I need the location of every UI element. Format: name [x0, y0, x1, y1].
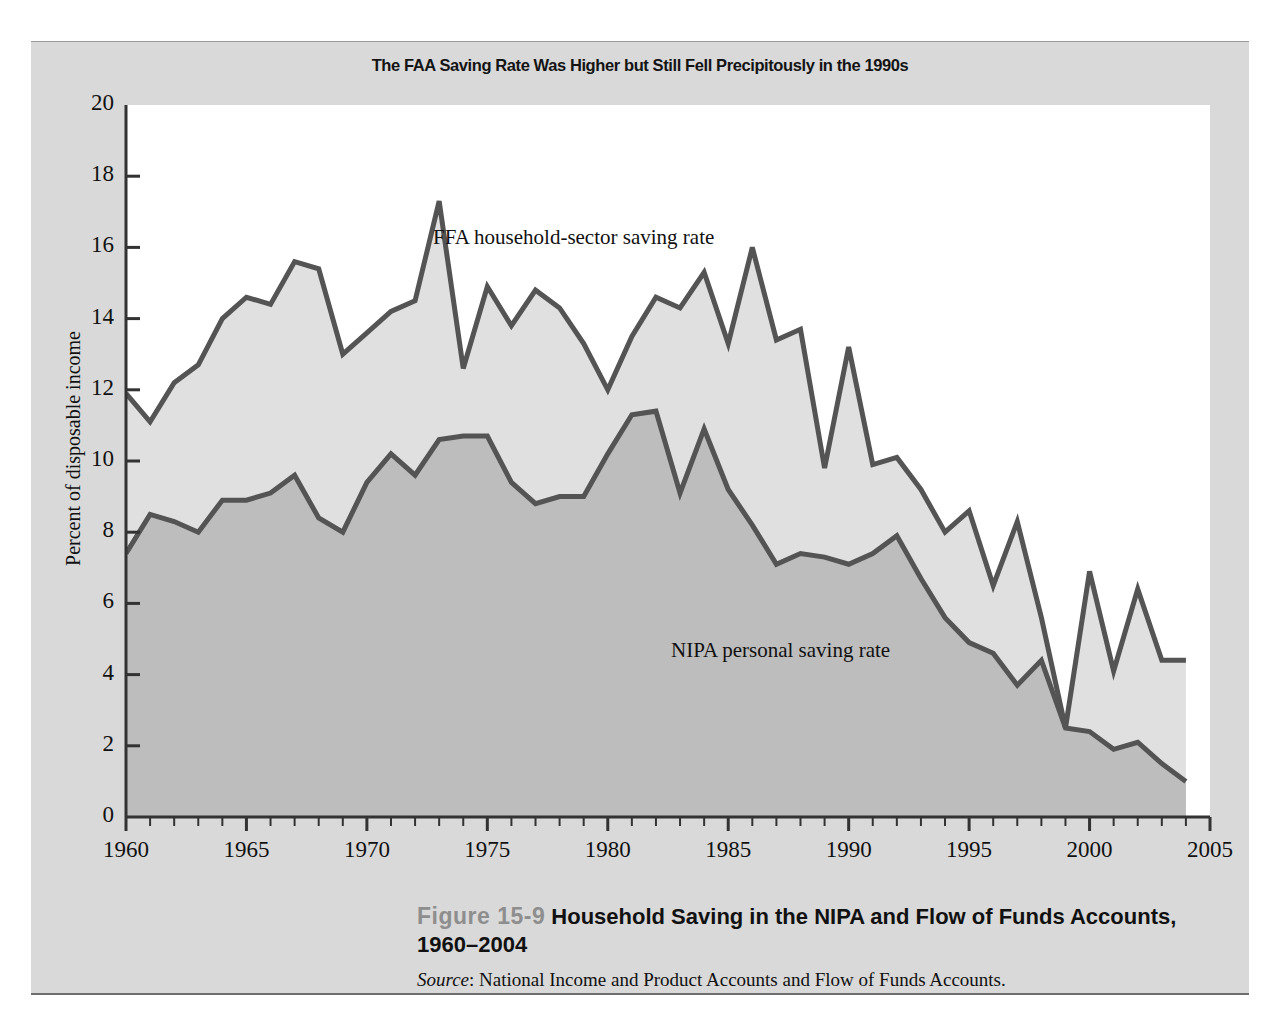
x-tick-label-2005: 2005 — [1170, 837, 1250, 863]
y-tick-label-12: 12 — [70, 375, 114, 401]
x-tick-label-1970: 1970 — [327, 837, 407, 863]
y-tick-label-10: 10 — [70, 446, 114, 472]
source-label: Source — [417, 969, 469, 990]
y-tick-label-18: 18 — [70, 161, 114, 187]
x-tick-label-2000: 2000 — [1050, 837, 1130, 863]
y-tick-label-16: 16 — [70, 232, 114, 258]
figure-number: Figure 15-9 — [417, 903, 545, 929]
x-tick-label-1995: 1995 — [929, 837, 1009, 863]
y-tick-label-0: 0 — [70, 802, 114, 828]
x-tick-label-1975: 1975 — [447, 837, 527, 863]
source-text: : National Income and Product Accounts a… — [469, 969, 1006, 990]
caption-title-line: Figure 15-9 Household Saving in the NIPA… — [417, 902, 1217, 960]
plot-area — [126, 105, 1210, 817]
x-tick-label-1965: 1965 — [206, 837, 286, 863]
nipa-series-label: NIPA personal saving rate — [671, 638, 890, 663]
figure-page: The FAA Saving Rate Was Higher but Still… — [0, 0, 1281, 1035]
chart-title: The FAA Saving Rate Was Higher but Still… — [31, 56, 1249, 75]
y-tick-label-14: 14 — [70, 304, 114, 330]
y-tick-label-4: 4 — [70, 660, 114, 686]
figure-caption: Figure 15-9 Household Saving in the NIPA… — [417, 902, 1217, 991]
x-tick-label-1980: 1980 — [568, 837, 648, 863]
plot-block: Percent of disposable income — [31, 97, 1249, 897]
figure-panel: The FAA Saving Rate Was Higher but Still… — [31, 41, 1249, 995]
y-tick-label-20: 20 — [70, 90, 114, 116]
chart-svg — [126, 105, 1210, 817]
caption-source: Source: National Income and Product Acco… — [417, 969, 1217, 991]
x-tick-marks — [126, 817, 1210, 831]
y-tick-label-8: 8 — [70, 517, 114, 543]
x-tick-label-1990: 1990 — [809, 837, 889, 863]
x-tick-label-1960: 1960 — [86, 837, 166, 863]
x-tick-label-1985: 1985 — [688, 837, 768, 863]
ffa-series-label: FFA household-sector saving rate — [433, 225, 714, 250]
y-tick-label-6: 6 — [70, 588, 114, 614]
y-tick-label-2: 2 — [70, 731, 114, 757]
